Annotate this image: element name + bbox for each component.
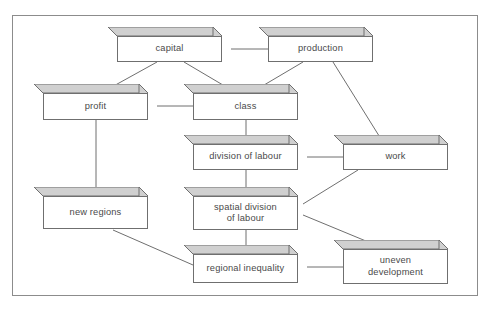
node-label: division of labour [209,151,281,162]
node-top-face [184,135,298,144]
node-label: profit [85,101,107,112]
node-front-face[interactable]: profit [43,93,148,120]
node-top-face [184,187,298,196]
node-top-face [34,84,148,93]
node-class[interactable]: class [184,84,298,120]
node-top-face [184,245,298,254]
node-top-face [334,240,448,249]
node-capital[interactable]: capital [108,27,222,62]
node-front-face[interactable]: class [193,93,298,120]
node-front-face[interactable]: regional inequality [193,254,298,283]
node-front-face[interactable]: uneven development [343,249,448,284]
node-top-face [108,27,222,36]
node-top-face [34,187,148,196]
node-label: regional inequality [207,263,285,274]
node-uneven-development[interactable]: uneven development [334,240,448,284]
node-label: class [235,101,257,112]
node-front-face[interactable]: new regions [43,196,148,229]
node-top-face [259,27,373,36]
node-label: uneven development [368,255,423,278]
node-production[interactable]: production [259,27,373,62]
node-top-face [334,135,448,144]
node-regional-inequality[interactable]: regional inequality [184,245,298,283]
node-top-face [184,84,298,93]
node-label: spatial division of labour [214,202,277,225]
node-front-face[interactable]: division of labour [193,144,298,170]
node-label: new regions [70,207,122,218]
node-front-face[interactable]: spatial division of labour [193,196,298,230]
node-new-regions[interactable]: new regions [34,187,148,229]
node-work[interactable]: work [334,135,448,170]
node-profit[interactable]: profit [34,84,148,120]
node-front-face[interactable]: work [343,144,448,170]
node-front-face[interactable]: capital [117,36,222,62]
node-label: capital [156,43,184,54]
node-front-face[interactable]: production [268,36,373,62]
node-spatial-division[interactable]: spatial division of labour [184,187,298,230]
diagram-canvas: capitalproductionprofitclassdivision of … [0,0,491,309]
node-label: production [298,43,343,54]
node-division-of-labour[interactable]: division of labour [184,135,298,170]
node-label: work [385,151,405,162]
